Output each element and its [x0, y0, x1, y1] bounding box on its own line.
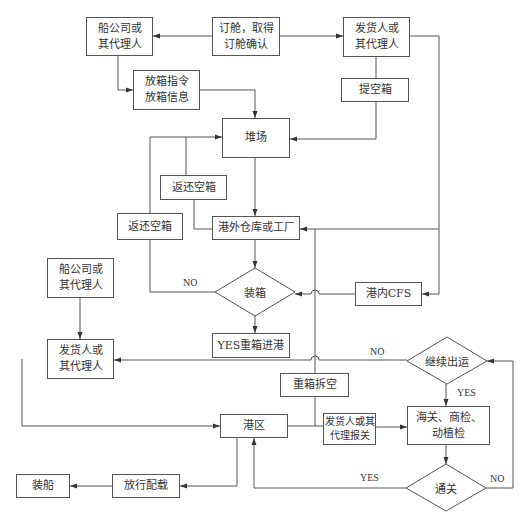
node-booking-confirmation: 订舱，取得 订舱确认 [212, 17, 280, 56]
node-container-yard: 堆场 [222, 118, 290, 158]
node-loading-ship: 装船 [16, 474, 70, 498]
node-return-empty-mid: 返还空箱 [160, 175, 227, 200]
node-shipper-top: 发货人或 其代理人 [343, 17, 410, 57]
flowchart-canvas: 船公司或 其代理人 订舱，取得 订舱确认 发货人或 其代理人 放箱指令 放箱信息… [0, 0, 530, 527]
node-shipping-company-left: 船公司或 其代理人 [47, 258, 114, 298]
node-inspection: 海关、商检、 动植检 [407, 406, 490, 445]
edge-label-continue-no: NO [370, 346, 384, 357]
node-customs-declaration: 发货人或其 代理报关 [323, 413, 376, 445]
node-release-order: 放箱指令 放箱信息 [133, 70, 200, 110]
node-full-container-in: YES重箱进港 [212, 333, 290, 358]
edge-label-clearance-yes: YES [360, 472, 379, 483]
continue-ship-label: 继续出运 [407, 349, 487, 373]
node-port-cfs: 港内CFS [355, 282, 422, 306]
node-unstuff-container: 重箱拆空 [280, 373, 349, 397]
node-shipper-left: 发货人或 其代理人 [47, 339, 114, 379]
node-port-area: 港区 [220, 414, 288, 438]
node-warehouse-factory: 港外仓库或工厂 [212, 216, 300, 240]
edge-label-clearance-no: NO [490, 473, 504, 484]
stuffing-label: 装箱 [215, 280, 295, 304]
node-pickup-empty: 提空箱 [341, 78, 409, 102]
node-shipping-company-top: 船公司或 其代理人 [86, 17, 153, 56]
clearance-label: 通关 [406, 476, 486, 500]
node-release-stowage: 放行配载 [112, 474, 180, 498]
edge-label-stuffing-no: NO [183, 277, 197, 288]
edge-label-continue-yes: YES [457, 387, 476, 398]
node-return-empty-left: 返还空箱 [117, 213, 183, 240]
